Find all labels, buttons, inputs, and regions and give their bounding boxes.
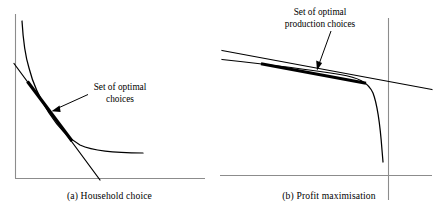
panel-b-annotation-line2: production choices <box>285 19 356 29</box>
panel-b-group: Set of optimal production choices <box>220 7 432 200</box>
figure-root: Set of optimal choices Set of optimal pr… <box>0 0 439 217</box>
panel-a-group: Set of optimal choices <box>14 14 205 180</box>
economics-diagram: Set of optimal choices Set of optimal pr… <box>0 0 439 217</box>
panel-a-annotation-arrow-line <box>56 95 88 110</box>
panel-a-annotation-arrowhead <box>52 106 61 112</box>
panel-a-optimal-set-segment <box>28 82 73 142</box>
panel-b-optimal-production-segment <box>261 64 366 84</box>
panel-b-production-frontier <box>222 60 383 163</box>
panel-a-annotation-line1: Set of optimal <box>94 82 147 92</box>
panel-b-annotation-line1: Set of optimal <box>294 7 347 17</box>
panel-a-caption: (a) Household choice <box>0 190 219 201</box>
panel-b-isoprofit-line <box>222 51 432 90</box>
panel-b-annotation-arrow-line <box>319 31 332 66</box>
panel-b-caption: (b) Profit maximisation <box>219 190 439 201</box>
panel-a-annotation-line2: choices <box>106 94 134 104</box>
